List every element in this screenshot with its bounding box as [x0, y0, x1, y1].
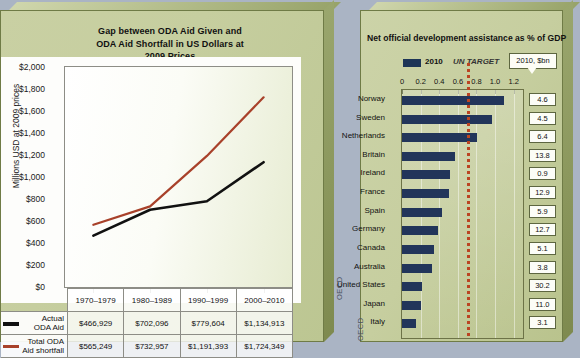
bar-united-states: [402, 282, 422, 291]
category-label-italy: Italy: [370, 317, 385, 326]
table-cell: $702,096: [124, 312, 180, 335]
value-box-spain: 5.9: [529, 205, 556, 218]
category-label-japan: Japan: [363, 299, 385, 308]
table-cell: $466,929: [68, 312, 124, 335]
category-label-ireland: Ireland: [361, 168, 385, 177]
bar-spain: [402, 208, 442, 217]
bar-netherlands: [402, 133, 477, 142]
x-axis-tick-label: 1.0: [490, 77, 500, 86]
value-box-norway: 4.6: [529, 93, 556, 106]
value-box-japan: 11.0: [529, 298, 556, 311]
y-axis-tick-label: $2,000: [19, 62, 45, 72]
table-cell: $779,604: [180, 312, 236, 335]
value-box-ireland: 0.9: [529, 167, 556, 180]
un-target-line: [467, 63, 470, 339]
bar-britain: [402, 152, 455, 161]
gridline: [458, 90, 459, 338]
line-series-actual-oda-aid: [93, 162, 263, 235]
table-row: Actual ODA Aid $466,929 $702,096 $779,60…: [1, 312, 293, 335]
x-axis-tick-label: 0.2: [415, 77, 425, 86]
value-box-italy: 3.1: [529, 316, 556, 329]
table-cell: $1,724,349: [236, 335, 292, 358]
x-axis-tick-label: 1.2: [508, 77, 518, 86]
line-chart-plot-area: [64, 66, 293, 288]
line-swatch-black-icon: [3, 322, 19, 326]
bar-italy: [402, 319, 416, 328]
table-cell: $1,134,913: [236, 312, 292, 335]
bar-sweden: [402, 115, 492, 124]
y-axis-tick-label: $1,800: [19, 84, 45, 94]
source-label-right: OECD: [356, 317, 365, 341]
category-label-canada: Canada: [357, 243, 385, 252]
category-label-germany: Germany: [352, 224, 385, 233]
bar-france: [402, 189, 449, 198]
x-axis-tick-label: 0: [400, 77, 404, 86]
chart-title-line-2: ODA Aid Shortfall in US Dollars at: [45, 38, 295, 51]
bar-japan: [402, 301, 421, 310]
oda-values-table: 1970–1979 1980–1989 1990–1999 2000–2010 …: [1, 288, 293, 358]
bar-canada: [402, 245, 434, 254]
x-axis-tick-label: 0.8: [471, 77, 481, 86]
table-col-header: 2000–2010: [236, 289, 292, 312]
panel-bevel-right: [563, 0, 573, 342]
line-swatch-red-icon: [3, 345, 19, 348]
y-axis-tick-label: $1,000: [19, 172, 45, 182]
category-label-britain: Britain: [362, 150, 385, 159]
line-chart-series-svg: [65, 67, 292, 287]
oda-percent-gdp-panel: Net official development assistance as %…: [360, 2, 574, 342]
value-box-germany: 12.7: [529, 223, 556, 236]
chart-title-line-1: Gap between ODA Aid Given and: [45, 25, 295, 38]
table-cell: $732,957: [124, 335, 180, 358]
bar-australia: [402, 264, 432, 273]
category-label-netherlands: Netherlands: [342, 131, 385, 140]
value-box-canada: 5.1: [529, 242, 556, 255]
table-col-header: 1980–1989: [124, 289, 180, 312]
y-axis-tick-label: $200: [26, 260, 45, 270]
bar-chart-title: Net official development assistance as %…: [367, 33, 559, 43]
category-label-norway: Norway: [358, 94, 385, 103]
table-corner-cell: [1, 289, 68, 312]
legend-label-un-target: UN TARGET: [453, 57, 499, 66]
table-cell: $565,249: [68, 335, 124, 358]
category-label-sweden: Sweden: [356, 113, 385, 122]
x-axis-tick-label: 0.4: [434, 77, 444, 86]
bar-chart-plot-area: [401, 89, 524, 339]
callout-tail-icon: [527, 67, 537, 74]
gridline: [514, 90, 515, 338]
category-label-spain: Spain: [365, 206, 385, 215]
panel-bevel-right: [324, 0, 334, 342]
y-axis-tick-label: $1,200: [19, 150, 45, 160]
x-axis-tick-label: 0.6: [453, 77, 463, 86]
category-label-france: France: [360, 187, 385, 196]
table-col-header: 1970–1979: [68, 289, 124, 312]
value-box-united-states: 30.2: [529, 279, 556, 292]
y-axis-tick-label: $1,400: [19, 128, 45, 138]
oda-percent-gdp-panel-face: Net official development assistance as %…: [360, 10, 563, 342]
value-box-netherlands: 6.4: [529, 130, 556, 143]
bar-germany: [402, 226, 438, 235]
oda-gap-panel: Gap between ODA Aid Given and ODA Aid Sh…: [0, 2, 336, 342]
y-axis-tick-label: $800: [26, 194, 45, 204]
value-box-sweden: 4.5: [529, 112, 556, 125]
legend-item-actual-oda-aid: Actual ODA Aid: [1, 312, 68, 335]
legend-label-2010: 2010: [425, 57, 443, 66]
gridline: [476, 90, 477, 338]
bar-norway: [402, 96, 504, 105]
oda-gap-panel-face: Gap between ODA Aid Given and ODA Aid Sh…: [0, 10, 324, 342]
gridline: [495, 90, 496, 338]
table-header-row: 1970–1979 1980–1989 1990–1999 2000–2010: [1, 289, 293, 312]
bar-ireland: [402, 170, 450, 179]
table-cell: $1,191,393: [180, 335, 236, 358]
legend-swatch-2010-icon: [403, 59, 421, 67]
legend-item-total-oda-aid-shortfall: Total ODA Aid shortfall: [1, 335, 68, 358]
y-axis-tick-label: $1,600: [19, 106, 45, 116]
value-box-france: 12.9: [529, 186, 556, 199]
category-label-australia: Australia: [354, 262, 385, 271]
y-axis-tick-label: $600: [26, 216, 45, 226]
value-box-britain: 13.8: [529, 149, 556, 162]
table-row: Total ODA Aid shortfall $565,249 $732,95…: [1, 335, 293, 358]
table-col-header: 1990–1999: [180, 289, 236, 312]
y-axis-tick-label: $400: [26, 238, 45, 248]
value-box-australia: 3.8: [529, 261, 556, 274]
category-label-united-states: United States: [337, 280, 385, 289]
